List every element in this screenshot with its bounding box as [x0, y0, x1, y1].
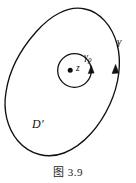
point-z [68, 68, 73, 73]
inner-curve-label-subscript: ρ [88, 55, 92, 64]
inner-curve-label: γρ [84, 52, 92, 63]
outer-contour-direction-arrow [112, 65, 119, 74]
figure-drawing [0, 0, 136, 183]
outer-curve-label: γ [117, 36, 121, 47]
region-label: D′ [32, 118, 44, 130]
figure-caption: 图 3.9 [0, 163, 136, 179]
figure-container: γ γρ z D′ 图 3.9 [0, 0, 136, 183]
point-label: z [76, 64, 80, 74]
inner-circle-direction-arrow [88, 65, 94, 73]
